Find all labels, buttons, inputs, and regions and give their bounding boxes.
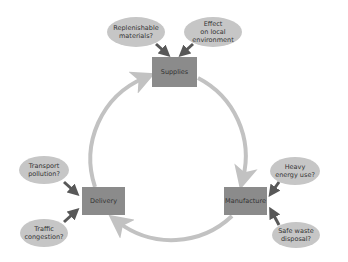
concern-transport-pollution-label: Transport pollution?	[19, 156, 69, 184]
stage-supplies-label: Supplies	[152, 57, 197, 87]
concern-traffic-congestion-label: Traffic congestion?	[20, 219, 68, 247]
arc-delivery-to-supplies	[90, 78, 144, 187]
arc-manufacture-to-delivery	[118, 216, 232, 240]
stage-delivery-label: Delivery	[82, 187, 125, 215]
arc-supplies-to-manufacture	[198, 78, 246, 178]
concern-safe-waste-label: Safe waste disposal?	[272, 222, 320, 248]
concern-replenishable-label: Replenishable materials?	[107, 17, 165, 47]
concern-effect-environment-label: Effect on local environment	[184, 17, 242, 47]
concern-heavy-energy-label: Heavy energy use?	[270, 157, 320, 185]
stage-manufacture-label: Manufacture	[224, 187, 267, 215]
